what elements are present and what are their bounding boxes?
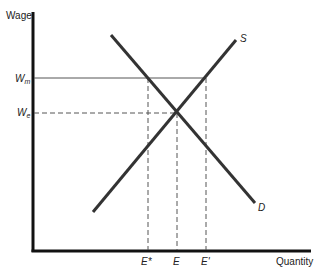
e-star-label: E* [141,256,153,267]
we-label: We [17,107,30,119]
demand-curve [111,35,255,203]
e-prime-label: E' [201,256,211,267]
wm-label: Wm [15,73,30,85]
y-axis-label: Wage [6,10,32,21]
supply-label: S [240,33,247,44]
x-axis-label: Quantity [276,256,313,267]
demand-label: D [258,202,265,213]
supply-curve [93,40,236,212]
supply-demand-diagram: Wage Quantity Wm We E* E E' S D [0,0,322,272]
e-label: E [173,256,180,267]
